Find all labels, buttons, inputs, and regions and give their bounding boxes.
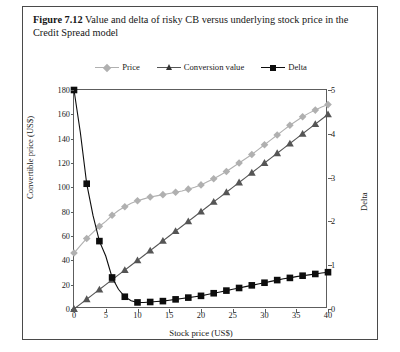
plot-area-wrapper: Convertible price (US$) Delta 0204060801… [23, 79, 379, 341]
data-point-marker [249, 282, 256, 289]
data-point-marker [96, 286, 104, 293]
data-point-marker [134, 256, 142, 263]
y-axis-tick-right: 5 [331, 86, 335, 95]
x-tickmark [138, 309, 139, 313]
data-point-marker [83, 295, 91, 302]
y-axis-tick-left: 20 [62, 280, 70, 289]
y-tickmark-left [71, 90, 75, 91]
figure-number: Figure 7.12 [33, 14, 83, 25]
y-axis-label-right: Delta [359, 192, 369, 211]
y-axis-tick-right: 4 [331, 129, 335, 138]
series-price [70, 101, 332, 257]
data-point-marker [146, 247, 154, 254]
y-axis-tick-left: 140 [58, 134, 70, 143]
y-tickmark-left [71, 236, 75, 237]
series-conversion-value [70, 110, 332, 311]
x-tickmark [201, 309, 202, 313]
data-point-marker [172, 188, 180, 196]
data-point-marker [299, 130, 307, 137]
x-tickmark [106, 309, 107, 313]
square-marker-icon [270, 65, 276, 71]
y-tickmark-right [328, 221, 332, 222]
legend-item-delta: Delta [261, 62, 307, 72]
data-point-marker [172, 296, 179, 303]
y-tickmark-right [328, 178, 332, 179]
y-axis-tick-right: 2 [331, 217, 335, 226]
data-point-marker [121, 203, 129, 211]
diamond-marker-icon [103, 63, 111, 71]
data-point-marker [109, 274, 116, 281]
legend-label-price: Price [122, 62, 140, 72]
data-point-marker [223, 188, 231, 195]
x-tickmark [233, 309, 234, 313]
legend-label-conversion-value: Conversion value [184, 62, 244, 72]
legend-label-delta: Delta [288, 62, 307, 72]
data-point-marker [324, 101, 332, 109]
data-point-marker [223, 287, 230, 294]
series-layer [74, 90, 328, 309]
data-point-marker [185, 294, 192, 301]
legend-item-price: Price [95, 62, 140, 72]
data-point-marker [235, 179, 243, 186]
data-point-marker [236, 285, 243, 292]
data-point-marker [134, 197, 142, 205]
legend-item-conversion-value: Conversion value [157, 62, 244, 72]
data-point-marker [159, 191, 167, 199]
figure-caption: Figure 7.12 Value and delta of risky CB … [33, 13, 369, 39]
legend-swatch-conversion-value [157, 63, 181, 72]
y-axis-tick-left: 60 [62, 232, 70, 241]
y-axis-tick-right: 3 [331, 173, 335, 182]
data-point-marker [160, 298, 167, 305]
y-tickmark-right [328, 90, 332, 91]
data-point-marker [299, 272, 306, 279]
data-point-marker [197, 208, 205, 215]
series-delta [71, 87, 332, 306]
data-point-marker [286, 140, 294, 147]
y-tickmark-right [328, 134, 332, 135]
x-tickmark [265, 309, 266, 313]
y-tickmark-left [71, 187, 75, 188]
data-point-marker [96, 238, 103, 245]
y-axis-tick-left: 160 [58, 110, 70, 119]
data-point-marker [274, 277, 281, 284]
data-point-marker [147, 299, 154, 306]
y-tickmark-left [71, 163, 75, 164]
data-point-marker [197, 181, 205, 189]
data-point-marker [121, 266, 129, 273]
y-axis-tick-left: 180 [58, 86, 70, 95]
data-point-marker [235, 159, 243, 167]
x-axis-label: Stock price (US$) [23, 328, 379, 338]
y-axis-tick-left: 40 [62, 256, 70, 265]
y-tickmark-left [71, 212, 75, 213]
figure-container: Figure 7.12 Value and delta of risky CB … [22, 6, 378, 340]
data-point-marker [311, 120, 319, 127]
y-axis-tick-left: 0 [66, 305, 70, 314]
triangle-marker-icon [166, 64, 172, 70]
x-tickmark [328, 309, 329, 313]
data-point-marker [273, 149, 281, 156]
y-tickmark-left [71, 260, 75, 261]
data-point-marker [299, 113, 307, 121]
data-point-marker [287, 275, 294, 282]
data-point-marker [261, 159, 269, 166]
data-point-marker [210, 198, 218, 205]
data-point-marker [184, 218, 192, 225]
data-point-marker [198, 293, 205, 300]
y-axis-tick-right: 1 [331, 261, 335, 270]
y-axis-tick-left: 80 [62, 207, 70, 216]
y-axis-tick-left: 120 [58, 159, 70, 168]
data-point-marker [325, 269, 332, 276]
x-tickmark [169, 309, 170, 313]
y-axis-tick-left: 100 [58, 183, 70, 192]
data-point-marker [122, 293, 129, 300]
x-tickmark [74, 309, 75, 313]
data-point-marker [134, 299, 141, 306]
y-axis-label-left: Convertible price (US$) [25, 116, 35, 199]
data-point-marker [83, 180, 90, 187]
data-point-marker [223, 168, 231, 176]
x-tickmark [296, 309, 297, 313]
plot-area: 0204060801001201401601800123450510152025… [73, 89, 327, 308]
data-point-marker [210, 175, 218, 183]
data-point-marker [324, 110, 332, 117]
data-point-marker [248, 169, 256, 176]
